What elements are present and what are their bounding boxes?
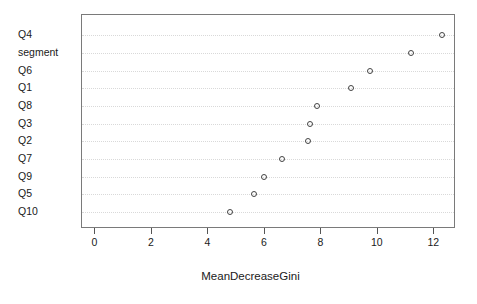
data-point-q2 (305, 138, 311, 144)
x-tick-0 (94, 228, 95, 234)
y-axis-label-q8: Q8 (18, 100, 32, 111)
gridline-row-9 (82, 194, 454, 195)
x-tick-label-4: 4 (192, 236, 222, 248)
gridline-row-10 (82, 212, 454, 213)
x-axis-title-text: MeanDecreaseGini (177, 270, 299, 282)
gridline-row-4 (82, 106, 454, 107)
y-axis-label-q9: Q9 (18, 171, 32, 182)
x-tick-label-10: 10 (362, 236, 392, 248)
variable-importance-dotplot: Q4segmentQ6Q1Q8Q3Q2Q7Q9Q5Q10 024681012 M… (0, 0, 477, 304)
data-point-q8 (314, 103, 320, 109)
gridline-row-5 (82, 124, 454, 125)
y-axis-label-q2: Q2 (18, 135, 32, 146)
y-axis-label-q10: Q10 (18, 206, 38, 217)
y-axis-label-q7: Q7 (18, 153, 32, 164)
gridline-row-1 (82, 53, 454, 54)
gridline-row-2 (82, 71, 454, 72)
y-axis-label-q6: Q6 (18, 65, 32, 76)
x-tick-label-0: 0 (79, 236, 109, 248)
x-tick-label-2: 2 (136, 236, 166, 248)
y-axis-label-q4: Q4 (18, 29, 32, 40)
x-tick-label-8: 8 (305, 236, 335, 248)
data-point-q9 (261, 174, 267, 180)
x-tick-12 (433, 228, 434, 234)
y-axis-label-q1: Q1 (18, 82, 32, 93)
x-axis-title: MeanDecreaseGini (0, 270, 477, 282)
x-tick-2 (151, 228, 152, 234)
data-point-q1 (348, 85, 354, 91)
gridline-row-7 (82, 159, 454, 160)
x-tick-6 (264, 228, 265, 234)
data-point-q7 (279, 156, 285, 162)
y-axis-label-q5: Q5 (18, 188, 32, 199)
y-axis-label-q3: Q3 (18, 118, 32, 129)
gridline-row-8 (82, 177, 454, 178)
x-tick-label-6: 6 (249, 236, 279, 248)
x-tick-10 (377, 228, 378, 234)
data-point-q4 (439, 32, 445, 38)
y-axis-label-segment: segment (18, 47, 58, 58)
gridline-row-6 (82, 141, 454, 142)
gridline-row-0 (82, 35, 454, 36)
x-tick-8 (320, 228, 321, 234)
gridline-row-3 (82, 88, 454, 89)
x-tick-4 (207, 228, 208, 234)
data-point-q3 (307, 121, 313, 127)
data-point-q5 (251, 191, 257, 197)
data-point-q10 (227, 209, 233, 215)
data-point-segment (408, 50, 414, 56)
plot-panel (81, 14, 455, 228)
data-point-q6 (367, 68, 373, 74)
x-tick-label-12: 12 (418, 236, 448, 248)
